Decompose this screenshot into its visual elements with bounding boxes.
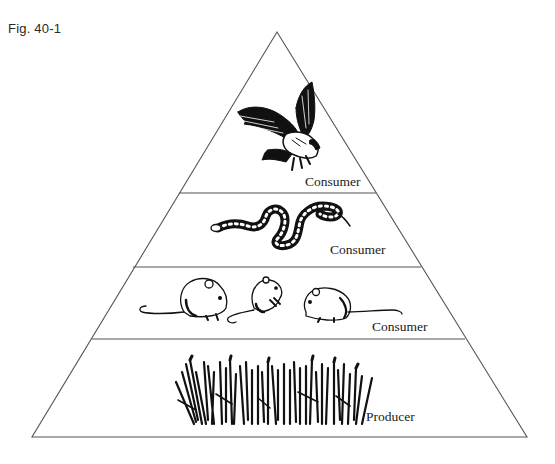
tier-label-eagle: Consumer	[305, 174, 361, 190]
energy-pyramid	[0, 0, 555, 464]
tier-label-grass: Producer	[366, 409, 415, 425]
snake-icon	[211, 206, 350, 246]
grass-icon	[176, 356, 372, 424]
mouse-icon	[140, 277, 402, 323]
tier-label-mice: Consumer	[372, 319, 428, 335]
tier-label-snake: Consumer	[330, 242, 386, 258]
eagle-icon	[238, 82, 320, 170]
